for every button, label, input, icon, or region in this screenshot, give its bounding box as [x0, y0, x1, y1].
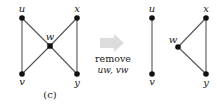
label-y: y — [73, 77, 80, 88]
node-w — [175, 44, 181, 50]
before-graph: u x w v y (c) — [19, 3, 80, 100]
label-u: u — [149, 3, 155, 14]
edge-w-y — [50, 46, 77, 74]
edge-w-y — [178, 47, 206, 74]
label-v: v — [19, 76, 25, 87]
node-x — [203, 15, 209, 21]
node-y — [74, 71, 80, 77]
label-x: x — [74, 3, 80, 14]
label-u: u — [19, 3, 25, 14]
after-graph: u v x w y — [149, 3, 209, 88]
node-y — [203, 71, 209, 77]
label-y: y — [202, 77, 209, 88]
right-arrow-icon — [100, 34, 124, 52]
node-u — [149, 15, 155, 21]
label-w: w — [46, 31, 55, 42]
edge-x-w — [178, 18, 206, 47]
label-x: x — [203, 3, 209, 14]
label-w: w — [169, 34, 178, 45]
node-w — [47, 43, 52, 48]
operation-label: remove — [95, 53, 131, 64]
operation: remove uw, vw — [95, 34, 131, 75]
label-v: v — [149, 76, 155, 87]
figure-caption: (c) — [43, 89, 57, 100]
edge-w-v — [22, 46, 50, 74]
node-u — [19, 15, 25, 21]
graph-edge-removal-diagram: u x w v y (c) remove uw, vw u v x w y — [0, 0, 217, 105]
removed-edges-label: uw, vw — [98, 65, 129, 75]
node-x — [74, 15, 80, 21]
